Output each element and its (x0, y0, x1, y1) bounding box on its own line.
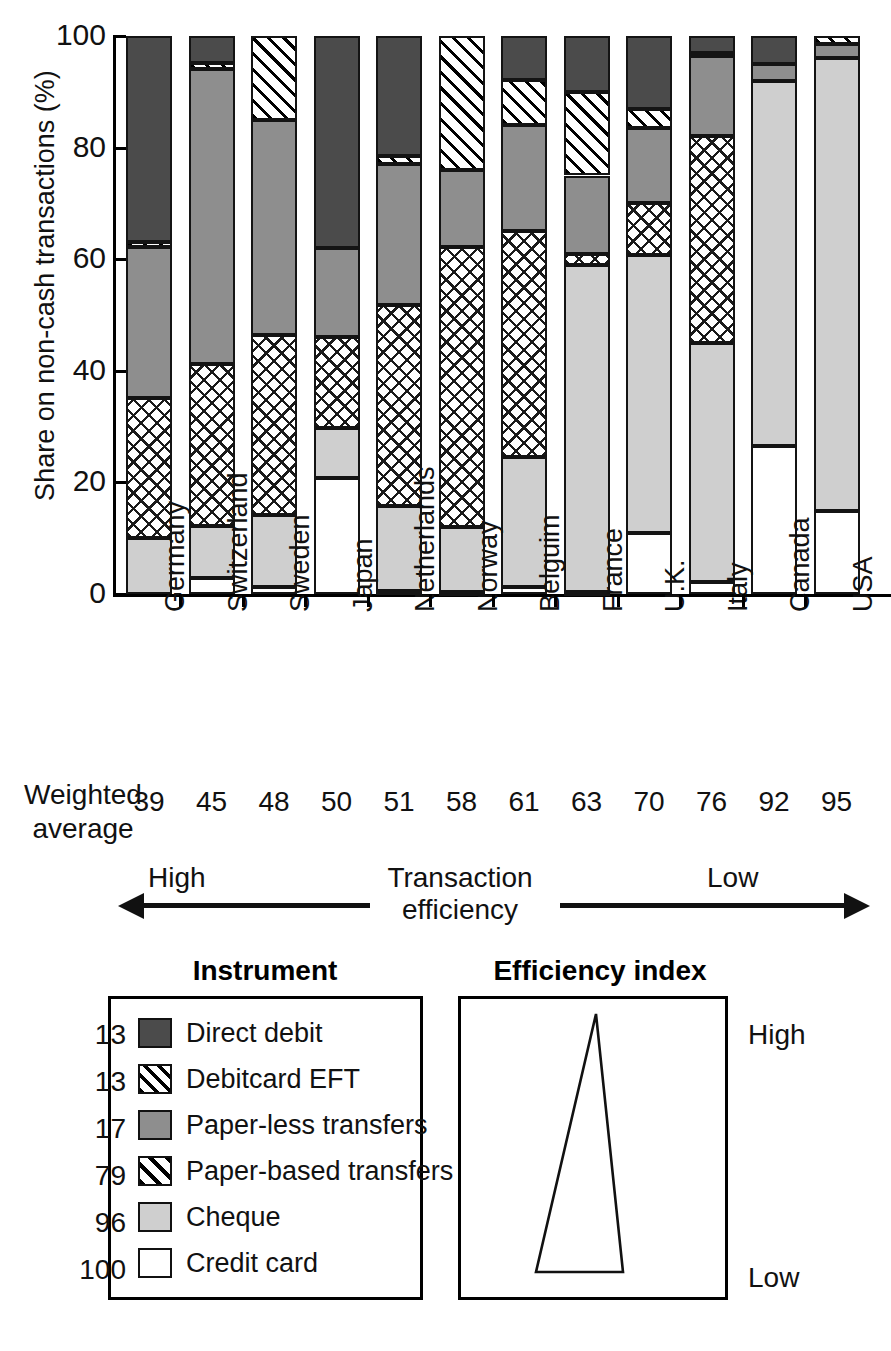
bar-segment-eft (564, 92, 610, 176)
efficiency-axis-title-line1: Transaction (370, 862, 550, 894)
bar-segment-eft (689, 53, 735, 57)
bar-segment-paperless (314, 248, 360, 337)
bar-segment-paperbased (626, 203, 672, 254)
legend-swatch-icon (138, 1156, 172, 1186)
efficiency-index-value: 96 (16, 1207, 126, 1239)
y-tick-label: 80 (40, 132, 106, 162)
efficiency-index-value: 17 (16, 1113, 126, 1145)
arrow-right-shaft (560, 903, 850, 908)
bar-norway (439, 36, 485, 594)
weighted-average-value: 95 (807, 786, 867, 818)
x-tick (679, 594, 682, 607)
bar-segment-eft (189, 63, 235, 70)
bar-segment-paperless (439, 170, 485, 247)
bar-canada (751, 36, 797, 594)
weighted-average-value: 61 (494, 786, 554, 818)
weighted-average-value: 92 (744, 786, 804, 818)
bar-segment-paperless (626, 128, 672, 203)
bar-segment-paperbased (251, 335, 297, 515)
efficiency-index-value: 13 (16, 1066, 126, 1098)
weighted-average-value: 63 (557, 786, 617, 818)
bar-segment-paperless (126, 247, 172, 398)
x-tick (617, 594, 620, 607)
legend-label: Paper-less transfers (186, 1110, 428, 1140)
weighted-average-value: 70 (619, 786, 679, 818)
x-label-usa: USA (848, 556, 879, 612)
bar-segment-eft (626, 109, 672, 129)
efficiency-high-label: High (148, 862, 206, 894)
efficiency-axis-title-line2: efficiency (370, 894, 550, 926)
x-tick (554, 594, 557, 607)
weighted-average-value: 45 (182, 786, 242, 818)
bar-segment-direct (376, 36, 422, 156)
x-tick (367, 594, 370, 607)
y-tick (113, 370, 126, 373)
y-tick-label: 100 (40, 20, 106, 50)
bar-segment-eft (814, 36, 860, 44)
y-axis-line (113, 36, 116, 597)
stacked-bar-chart: Share on non-cash transactions (%) 02040… (0, 0, 891, 600)
y-tick-label: 20 (40, 466, 106, 496)
legend-label: Cheque (186, 1202, 281, 1232)
efficiency-index-value: 13 (16, 1019, 126, 1051)
x-tick (179, 594, 182, 607)
arrow-left-head-icon (118, 893, 144, 919)
y-tick-label: 0 (40, 578, 106, 608)
bar-france (564, 36, 610, 594)
y-tick (113, 147, 126, 150)
bar-segment-paperless (814, 44, 860, 58)
x-label-netherlands: Netherlands (410, 466, 441, 612)
bar-segment-paperbased (564, 254, 610, 265)
bar-segment-direct (126, 36, 172, 242)
efficiency-index-high-label: High (748, 1019, 806, 1051)
bar-segment-paperbased (689, 136, 735, 342)
bar-segment-paperless (751, 64, 797, 81)
legend-swatch-icon (138, 1018, 172, 1048)
x-label-italy: Italy (723, 562, 754, 612)
x-tick (492, 594, 495, 607)
bar-sweden (251, 36, 297, 594)
x-label-uk: U.K. (660, 559, 691, 612)
x-tick (804, 594, 807, 607)
legend-swatch-icon (138, 1064, 172, 1094)
x-tick (242, 594, 245, 607)
bar-usa (814, 36, 860, 594)
y-tick (113, 258, 126, 261)
x-label-sweden: Sweden (285, 514, 316, 612)
legend-label: Credit card (186, 1248, 318, 1278)
instrument-legend-title: Instrument (110, 955, 420, 987)
bar-segment-cheque (314, 428, 360, 478)
bar-japan (314, 36, 360, 594)
bar-segment-cheque (814, 58, 860, 511)
bar-uk (626, 36, 672, 594)
bar-segment-cheque (751, 81, 797, 446)
bar-segment-direct (189, 36, 235, 63)
bar-segment-paperbased (501, 231, 547, 457)
weighted-average-value: 50 (307, 786, 367, 818)
bar-segment-cheque (689, 343, 735, 582)
legend-swatch-icon (138, 1202, 172, 1232)
legend-swatch-icon (138, 1248, 172, 1278)
bar-segment-eft (501, 80, 547, 126)
efficiency-axis-title: Transaction efficiency (370, 862, 550, 926)
bar-segment-direct (689, 36, 735, 53)
y-tick (113, 481, 126, 484)
legend-label: Paper-based transfers (186, 1156, 453, 1186)
weighted-average-value: 58 (432, 786, 492, 818)
legend-swatch-icon (138, 1110, 172, 1140)
efficiency-triangle-icon (458, 996, 728, 1300)
x-label-france: France (598, 528, 629, 612)
bar-segment-direct (564, 36, 610, 92)
bar-segment-paperless (501, 125, 547, 231)
arrow-left-shaft (140, 903, 370, 908)
bar-segment-direct (314, 36, 360, 248)
x-label-canada: Canada (785, 517, 816, 612)
x-tick (742, 594, 745, 607)
y-tick-label: 40 (40, 355, 106, 385)
bar-segment-paperless (376, 164, 422, 305)
bar-segment-paperless (564, 176, 610, 254)
x-label-switzerland: Switzerland (223, 472, 254, 612)
efficiency-index-title: Efficiency index (455, 955, 745, 987)
bar-segment-paperless (689, 56, 735, 137)
bar-belguim (501, 36, 547, 594)
